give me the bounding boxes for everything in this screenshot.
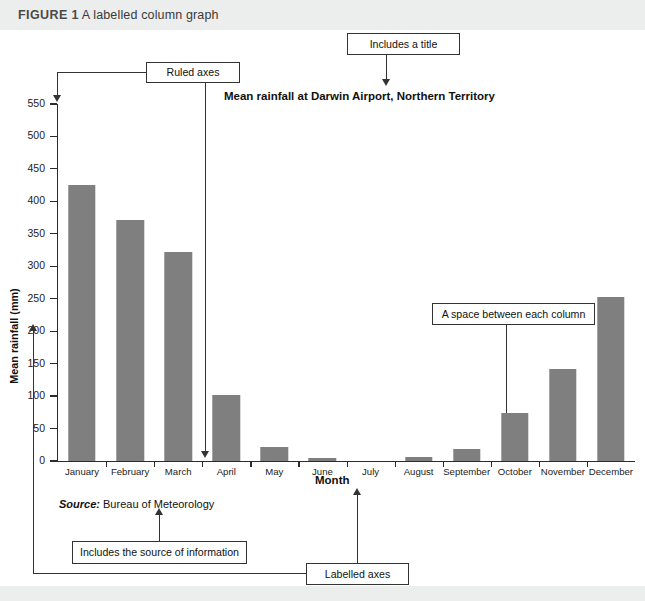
- callout-includes-a-title: Includes a title: [347, 33, 460, 55]
- bar-slot: [395, 104, 443, 461]
- callout-labelled-axes: Labelled axes: [306, 563, 409, 585]
- chart-title: Mean rainfall at Darwin Airport, Norther…: [224, 90, 495, 102]
- y-tick-label: 450: [5, 162, 45, 174]
- x-category-label: March: [154, 466, 202, 477]
- y-axis-label: Mean rainfall (mm): [8, 288, 20, 383]
- bar[interactable]: [309, 458, 336, 461]
- x-category-label: January: [58, 466, 106, 477]
- y-tick-label: 0: [5, 454, 45, 466]
- bar[interactable]: [549, 369, 576, 461]
- arrow-title-down: [382, 79, 390, 86]
- x-tick-mark: [298, 461, 299, 467]
- figure-caption-text: A labelled column graph: [82, 8, 219, 22]
- y-tick-mark: [50, 201, 57, 202]
- bar-slot: [491, 104, 539, 461]
- leader-source-vertical: [159, 514, 160, 541]
- bar-slot: [250, 104, 298, 461]
- y-tick-mark: [50, 168, 57, 169]
- callout-labelled-axes-label: Labelled axes: [325, 569, 390, 580]
- x-tick-mark: [106, 461, 107, 467]
- source-label: Source:: [59, 498, 100, 510]
- bar-slot: [154, 104, 202, 461]
- y-tick-label: 500: [5, 129, 45, 141]
- x-tick-mark: [347, 461, 348, 467]
- bar[interactable]: [164, 252, 191, 461]
- bar[interactable]: [68, 185, 95, 461]
- bar-slot: [298, 104, 346, 461]
- bar-slot: [347, 104, 395, 461]
- x-category-label: June: [298, 466, 346, 477]
- y-tick-label: 300: [5, 259, 45, 271]
- bar-slot: [58, 104, 106, 461]
- bar[interactable]: [116, 220, 143, 461]
- y-tick-mark: [50, 103, 57, 104]
- x-category-label: October: [491, 466, 539, 477]
- y-tick-mark: [50, 363, 57, 364]
- y-tick-mark: [50, 136, 57, 137]
- y-tick-mark: [50, 460, 57, 461]
- y-tick-label: 100: [5, 389, 45, 401]
- leader-labelled-axes-horizontal: [33, 573, 306, 574]
- arrow-source-up: [155, 508, 163, 515]
- x-tick-mark: [250, 461, 251, 467]
- bar-series: [58, 104, 635, 461]
- y-tick-mark: [50, 298, 57, 299]
- x-category-label: April: [202, 466, 250, 477]
- x-category-label: February: [106, 466, 154, 477]
- bar-slot: [202, 104, 250, 461]
- bar[interactable]: [261, 447, 288, 461]
- callout-source-of-information-label: Includes the source of information: [80, 547, 239, 558]
- y-tick-label: 50: [5, 422, 45, 434]
- x-category-label: May: [250, 466, 298, 477]
- bar-slot: [587, 104, 635, 461]
- leader-labelled-axes-up-month: [357, 494, 358, 563]
- x-category-label: December: [587, 466, 635, 477]
- y-tick-mark: [50, 395, 57, 396]
- bar[interactable]: [405, 457, 432, 461]
- x-category-label: July: [347, 466, 395, 477]
- page-bottom-band: [0, 586, 645, 601]
- y-tick-label: 550: [5, 97, 45, 109]
- bar[interactable]: [501, 413, 528, 461]
- leader-title-vertical: [386, 55, 387, 80]
- x-category-label: September: [443, 466, 491, 477]
- figure-page: FIGURE 1 A labelled column graph Mean ra…: [0, 0, 645, 601]
- bar-slot: [106, 104, 154, 461]
- bar-slot: [539, 104, 587, 461]
- x-tick-mark: [587, 461, 588, 467]
- callout-source-of-information: Includes the source of information: [72, 541, 247, 564]
- callout-ruled-axes-label: Ruled axes: [167, 67, 220, 78]
- x-category-label: November: [539, 466, 587, 477]
- y-tick-label: 350: [5, 227, 45, 239]
- leader-ruled-axes-vertical-left: [57, 72, 58, 96]
- x-tick-mark: [202, 461, 203, 467]
- x-tick-mark: [154, 461, 155, 467]
- leader-labelled-axes-vertical: [33, 330, 34, 573]
- x-tick-mark: [443, 461, 444, 467]
- y-tick-label: 400: [5, 194, 45, 206]
- callout-ruled-axes: Ruled axes: [146, 62, 240, 83]
- bar[interactable]: [453, 449, 480, 461]
- y-tick-mark: [50, 233, 57, 234]
- x-tick-mark: [395, 461, 396, 467]
- bar-slot: [443, 104, 491, 461]
- x-category-label: August: [395, 466, 443, 477]
- x-tick-mark: [491, 461, 492, 467]
- y-tick-mark: [50, 428, 57, 429]
- y-tick-mark: [50, 331, 57, 332]
- source-note: Source: Bureau of Meteorology: [59, 498, 214, 510]
- bar[interactable]: [213, 395, 240, 461]
- bar[interactable]: [597, 297, 624, 461]
- callout-includes-a-title-label: Includes a title: [370, 39, 438, 50]
- leader-ruled-axes-horizontal: [57, 72, 146, 73]
- arrow-ylabel-up: [29, 324, 37, 331]
- arrow-month-up: [353, 488, 361, 495]
- y-tick-mark: [50, 266, 57, 267]
- x-tick-mark: [539, 461, 540, 467]
